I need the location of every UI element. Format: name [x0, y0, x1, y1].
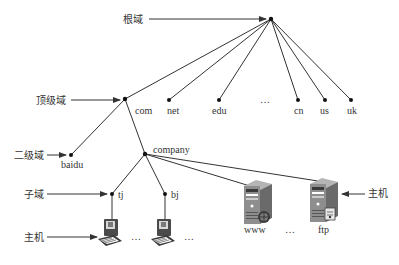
- label-pc-ellipsis-1: …: [131, 231, 141, 242]
- web-server-icon: [244, 180, 272, 224]
- node-bj: [163, 192, 167, 196]
- label-company: company: [153, 144, 190, 155]
- label-bj: bj: [171, 189, 179, 200]
- node-com: [123, 97, 127, 101]
- desktop-computer-icon: [98, 219, 122, 246]
- label-www: www: [244, 224, 266, 235]
- level-label-subdomain: 子域: [24, 188, 44, 200]
- ftp-server-icon: [310, 178, 338, 222]
- root-edges: [125, 19, 351, 100]
- edge-root-us: [271, 19, 325, 100]
- label-ftp: ftp: [318, 224, 329, 235]
- edge-root-edu: [219, 19, 271, 100]
- node-cn: [296, 98, 300, 102]
- label-uk: uk: [347, 105, 357, 116]
- edge-company-bj: [145, 154, 165, 194]
- label-tj: tj: [118, 189, 124, 200]
- edge-company-ftp: [145, 154, 318, 181]
- edge-root-cn: [271, 19, 298, 100]
- label-pc-ellipsis-2: …: [184, 231, 194, 242]
- label-net: net: [167, 105, 179, 116]
- level-label-host-right: 主机: [368, 187, 388, 199]
- edge-company-tj: [112, 154, 145, 194]
- desktop-computer-icon: [151, 219, 175, 246]
- node-us: [323, 98, 327, 102]
- edge-root-com: [125, 19, 271, 99]
- level-label-second-level: 二级域: [14, 149, 44, 161]
- label-cn: cn: [294, 105, 303, 116]
- label-server-ellipsis: …: [285, 224, 295, 235]
- edge-com-baidu: [71, 99, 125, 155]
- label-us: us: [320, 105, 329, 116]
- edge-company-www: [145, 154, 250, 186]
- edge-root-net: [169, 19, 271, 100]
- node-net: [167, 98, 171, 102]
- label-com: com: [135, 105, 152, 116]
- node-company: [143, 152, 147, 156]
- node-baidu: [69, 153, 73, 157]
- label-edu: edu: [212, 105, 226, 116]
- node-root: [269, 17, 273, 21]
- level-label-host-left: 主机: [24, 231, 44, 243]
- label-baidu: baidu: [61, 159, 83, 170]
- node-edu: [217, 98, 221, 102]
- node-uk: [349, 98, 353, 102]
- dns-hierarchy-diagram: com net edu … cn us uk baidu company tj …: [0, 0, 399, 265]
- label-tld-ellipsis: …: [260, 94, 270, 105]
- level-label-root: 根域: [123, 13, 143, 25]
- node-tj: [110, 192, 114, 196]
- edge-root-uk: [271, 19, 351, 100]
- level-label-top-level: 顶级域: [36, 94, 66, 106]
